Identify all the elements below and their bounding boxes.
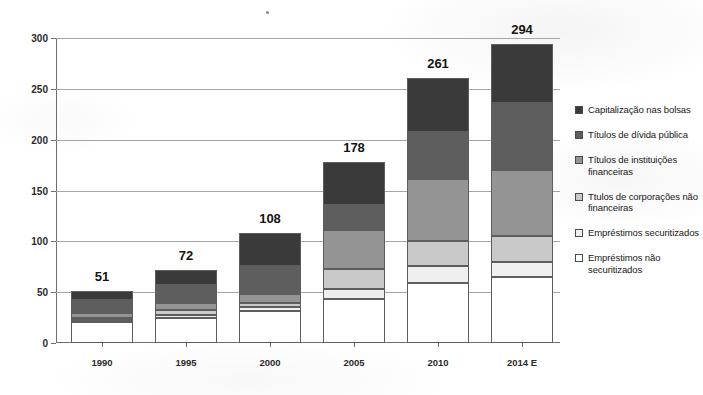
- bar-segment[interactable]: [155, 303, 217, 310]
- bar-total-label: 294: [511, 22, 533, 37]
- bar-segment[interactable]: [407, 241, 469, 265]
- bar-segment[interactable]: [491, 103, 553, 170]
- x-tick-label: 1995: [175, 357, 196, 368]
- bar-segment[interactable]: [71, 313, 133, 318]
- legend-swatch-titulos-de-divida-publica: [575, 131, 583, 139]
- y-tick-label: 0: [42, 338, 48, 349]
- plot-area: 050100150200250300 511990721995108200017…: [56, 38, 560, 343]
- x-tick-label: 2010: [427, 357, 448, 368]
- x-tick-label: 2000: [259, 357, 280, 368]
- legend-swatch-titulos-de-instituicoes-financeiras: [575, 156, 583, 164]
- y-tick-label: 150: [31, 185, 48, 196]
- x-tick-mark: [186, 343, 187, 347]
- legend-item[interactable]: Empréstimos não securitizados: [575, 252, 703, 276]
- legend-label: Títulos de dívida pública: [588, 129, 688, 141]
- legend-item[interactable]: Títulos de dívida pública: [575, 129, 703, 141]
- bar-segment[interactable]: [239, 294, 301, 303]
- bar-stack: [323, 38, 385, 343]
- bar-segment[interactable]: [155, 310, 217, 314]
- legend-swatch-emprestimos-securitizados: [575, 229, 583, 237]
- bar-group[interactable]: 511990: [71, 38, 133, 343]
- legend-label: Capitalização nas bolsas: [588, 104, 691, 116]
- y-tick-label: 200: [31, 134, 48, 145]
- legend-swatch-capitalizacao-nas-bolsas: [575, 106, 583, 114]
- x-tick-label: 2005: [343, 357, 364, 368]
- bar-stack: [407, 38, 469, 343]
- bar-group[interactable]: 2612010: [407, 38, 469, 343]
- y-tick-label: 50: [37, 287, 48, 298]
- bar-group[interactable]: 2942014 E: [491, 38, 553, 343]
- bar-segment[interactable]: [323, 269, 385, 289]
- bar-segment[interactable]: [491, 262, 553, 277]
- bar-segment[interactable]: [407, 132, 469, 180]
- bar-segment[interactable]: [407, 266, 469, 283]
- bar-total-label: 108: [259, 211, 281, 226]
- legend-label: Ttulos de corporações não financeiras: [588, 191, 703, 215]
- y-tick-mark: [51, 343, 56, 344]
- bar-stack: [155, 38, 217, 343]
- bar-stack: [71, 38, 133, 343]
- bar-segment[interactable]: [239, 233, 301, 266]
- bar-segment[interactable]: [323, 205, 385, 230]
- bar-segment[interactable]: [239, 303, 301, 307]
- bar-segment[interactable]: [71, 318, 133, 320]
- bar-group[interactable]: 721995: [155, 38, 217, 343]
- bar-stack: [491, 38, 553, 343]
- bar-total-label: 72: [179, 248, 193, 263]
- bar-segment[interactable]: [155, 315, 217, 318]
- bar-segment[interactable]: [491, 44, 553, 103]
- bar-segment[interactable]: [491, 236, 553, 261]
- bar-segment[interactable]: [323, 289, 385, 299]
- x-tick-mark: [354, 343, 355, 347]
- bar-group[interactable]: 1782005: [323, 38, 385, 343]
- legend-item[interactable]: Ttulos de corporações não financeiras: [575, 191, 703, 215]
- bar-segment[interactable]: [239, 311, 301, 343]
- x-tick-mark: [438, 343, 439, 347]
- legend-item[interactable]: Capitalização nas bolsas: [575, 104, 703, 116]
- bar-segment[interactable]: [155, 318, 217, 343]
- bar-segment[interactable]: [71, 300, 133, 312]
- bar-segment[interactable]: [239, 266, 301, 294]
- bar-group[interactable]: 1082000: [239, 38, 301, 343]
- bar-segment[interactable]: [323, 230, 385, 269]
- y-tick-label: 300: [31, 33, 48, 44]
- bar-segment[interactable]: [407, 179, 469, 241]
- legend-swatch-titulos-de-corporacoes-nao-financeiras: [575, 193, 583, 201]
- x-tick-mark: [102, 343, 103, 347]
- y-tick-label: 100: [31, 236, 48, 247]
- bar-segment[interactable]: [407, 78, 469, 132]
- bar-segment[interactable]: [323, 162, 385, 205]
- bar-segment[interactable]: [407, 283, 469, 343]
- bar-segment[interactable]: [71, 320, 133, 322]
- legend-swatch-emprestimos-nao-securitizados: [575, 254, 583, 262]
- bar-total-label: 261: [427, 56, 449, 71]
- bar-segment[interactable]: [323, 299, 385, 343]
- bar-total-label: 178: [343, 140, 365, 155]
- bar-total-label: 51: [95, 269, 109, 284]
- chart-legend: Capitalização nas bolsas Títulos de dívi…: [575, 104, 703, 289]
- bar-segment[interactable]: [491, 170, 553, 236]
- bar-segment[interactable]: [239, 307, 301, 311]
- x-tick-label: 1990: [91, 357, 112, 368]
- legend-label: Títulos de instituições financeiras: [588, 154, 703, 178]
- y-tick-label: 250: [31, 83, 48, 94]
- bar-stack: [239, 38, 301, 343]
- bar-segment[interactable]: [155, 285, 217, 303]
- bar-segment[interactable]: [491, 277, 553, 343]
- stacked-bar-chart: 050100150200250300 511990721995108200017…: [0, 0, 703, 395]
- x-tick-mark: [522, 343, 523, 347]
- legend-item[interactable]: Empréstimos securitizados: [575, 227, 703, 239]
- legend-label: Empréstimos não securitizados: [588, 252, 703, 276]
- x-tick-label: 2014 E: [507, 357, 537, 368]
- bar-segment[interactable]: [71, 291, 133, 300]
- bar-segment[interactable]: [71, 322, 133, 343]
- legend-item[interactable]: Títulos de instituições financeiras: [575, 154, 703, 178]
- x-tick-mark: [270, 343, 271, 347]
- legend-label: Empréstimos securitizados: [588, 227, 699, 239]
- scan-speck: [266, 11, 269, 14]
- bars-layer: 5119907219951082000178200526120102942014…: [56, 38, 560, 343]
- bar-segment[interactable]: [155, 270, 217, 285]
